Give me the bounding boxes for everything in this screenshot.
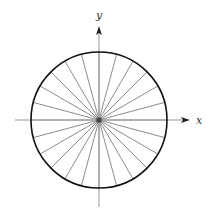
spoke <box>33 102 99 120</box>
spoke <box>81 120 99 186</box>
spoke <box>99 102 165 120</box>
spoke <box>99 54 117 120</box>
spoked-circle-diagram: x y <box>0 0 213 211</box>
y-axis-label: y <box>95 9 103 22</box>
spoke <box>99 120 117 186</box>
spoke <box>33 120 99 138</box>
spoke <box>81 54 99 120</box>
x-axis-label: x <box>196 114 203 127</box>
center-hub <box>96 117 101 122</box>
spoke <box>99 120 165 138</box>
